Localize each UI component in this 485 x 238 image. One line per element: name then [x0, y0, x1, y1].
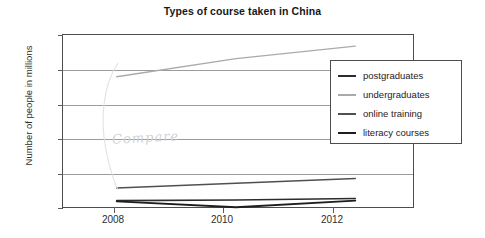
legend-swatch-postgraduates — [338, 75, 356, 77]
legend-swatch-undergraduates — [338, 94, 356, 96]
legend-swatch-online-training — [338, 113, 356, 115]
chart-canvas: Types of course taken in China Number of… — [0, 0, 485, 238]
legend-item-undergraduates[interactable]: undergraduates — [338, 85, 461, 104]
legend-item-postgraduates[interactable]: postgraduates — [338, 66, 461, 85]
legend-swatch-literacy-courses — [338, 132, 356, 134]
line-literacy-courses — [117, 201, 356, 208]
line-online-training — [117, 178, 356, 188]
legend-label-postgraduates: postgraduates — [363, 70, 423, 81]
y-axis-title: Number of people in millions — [23, 21, 34, 191]
legend[interactable]: postgraduates undergraduates online trai… — [330, 60, 462, 144]
legend-label-literacy-courses: literacy courses — [363, 127, 429, 138]
line-undergraduates — [117, 46, 356, 77]
x-tick-label-2008: 2008 — [88, 214, 138, 225]
legend-label-online-training: online training — [363, 108, 422, 119]
line-postgraduates — [117, 199, 356, 201]
legend-item-online-training[interactable]: online training — [338, 104, 461, 123]
legend-label-undergraduates: undergraduates — [363, 89, 430, 100]
chart-title: Types of course taken in China — [0, 5, 485, 17]
x-tick-label-2010: 2010 — [197, 214, 247, 225]
x-tick-label-2012: 2012 — [307, 214, 357, 225]
legend-item-literacy-courses[interactable]: literacy courses — [338, 123, 461, 142]
